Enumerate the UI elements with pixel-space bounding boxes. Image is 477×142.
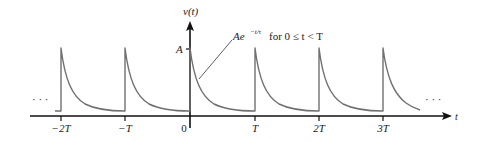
annotation-leader-line: [199, 40, 232, 79]
tick-label-2T: 2T: [313, 122, 326, 134]
annotation-label: Ae −t/τ for 0 ≤ t < T: [232, 28, 323, 42]
ellipsis-right: · · ·: [425, 93, 442, 105]
pulse-train-curve: [55, 48, 420, 111]
y-axis-label: v(t): [183, 5, 199, 18]
amplitude-label: A: [175, 43, 183, 55]
annotation-condition: for 0 ≤ t < T: [269, 30, 323, 42]
tick-label-minus-2T: −2T: [51, 122, 71, 134]
ellipsis-left: · · ·: [32, 93, 49, 105]
diagram-svg: v(t) t A Ae −t/τ for 0 ≤ t < T · · · · ·…: [0, 0, 477, 142]
tick-label-minus-T: −T: [118, 122, 132, 134]
annotation-exponent: −t/τ: [250, 28, 262, 36]
pulse-train-diagram: v(t) t A Ae −t/τ for 0 ≤ t < T · · · · ·…: [0, 0, 477, 142]
annotation-base: Ae: [232, 30, 245, 42]
tick-label-zero: 0: [181, 122, 187, 134]
tick-label-3T: 3T: [376, 122, 390, 134]
tick-label-T: T: [252, 122, 259, 134]
x-axis-label: t: [455, 111, 458, 122]
